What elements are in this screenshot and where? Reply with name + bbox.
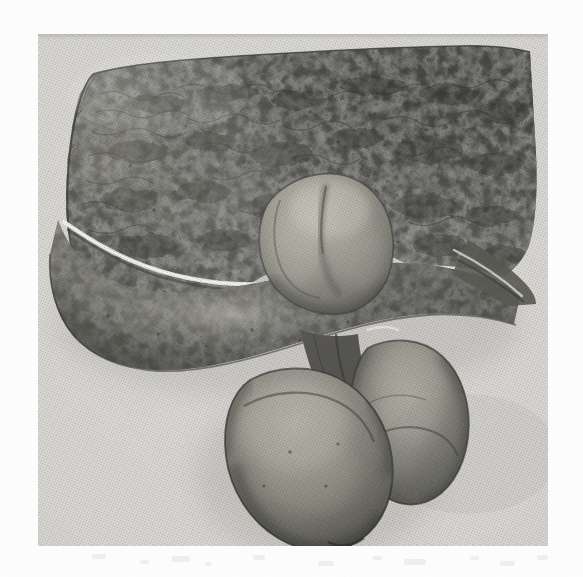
illustration-plate (38, 34, 548, 546)
plate-paper-grain (38, 34, 548, 546)
scan-sheet (0, 0, 583, 577)
